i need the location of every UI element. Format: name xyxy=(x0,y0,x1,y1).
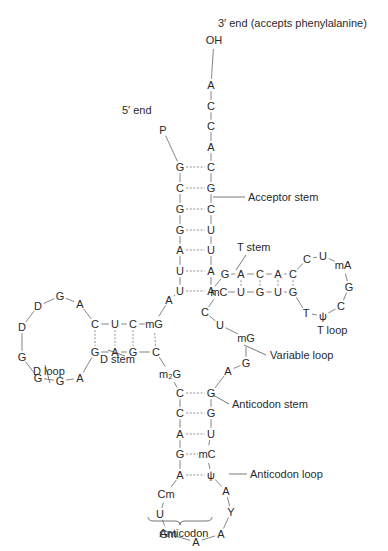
nucleotide-d-D2: D xyxy=(18,321,26,333)
backbone-bond xyxy=(227,497,229,506)
anticodon-stem-label: Anticodon stem xyxy=(232,398,308,410)
nucleotide-tl-U: U xyxy=(319,250,327,262)
nucleotide-ac-r3: U xyxy=(207,428,215,440)
nucleotide-acl-A3: A xyxy=(222,485,230,497)
backbone-bond xyxy=(209,299,214,307)
nucleotide-d-C3: C xyxy=(152,346,160,358)
nucleotide-a2: C xyxy=(176,182,184,194)
backbone-bond xyxy=(171,480,176,487)
base-pair xyxy=(155,333,156,346)
nucleotide-d-C1: C xyxy=(129,318,137,330)
t-stem-label: T stem xyxy=(237,241,270,253)
backbone-bond xyxy=(345,274,347,281)
nucleotide-b1: C xyxy=(207,161,215,173)
nucleotide-tl-psi: ψ xyxy=(319,310,327,322)
backbone-bond xyxy=(209,463,210,469)
nucleotide-t-G2: G xyxy=(289,286,298,298)
nucleotide-d-A1: A xyxy=(76,298,84,310)
nucleotide-v-U: U xyxy=(216,319,224,331)
nucleotide-v-G: G xyxy=(242,357,251,369)
nucleotide-t-mC: mC xyxy=(210,286,227,298)
t-loop-label: T loop xyxy=(317,324,347,336)
nucleotide-tl-T: T xyxy=(303,307,310,319)
nucleotide-b4: U xyxy=(207,224,215,236)
backbone-bond xyxy=(66,298,74,301)
nucleotide-ac-l1: C xyxy=(176,387,184,399)
backbone-bond xyxy=(174,295,175,296)
label-leader-lines xyxy=(45,197,266,474)
nucleotide-d-mG: mG xyxy=(145,318,163,330)
backbone-bond xyxy=(224,518,229,529)
nucleotide-ac-r2: G xyxy=(207,407,216,419)
nucleotide-d-G1: G xyxy=(56,290,65,302)
nucleotide-a4: G xyxy=(176,224,185,236)
variable-loop-label: Variable loop xyxy=(270,349,333,361)
nucleotide-a7: U xyxy=(176,285,184,297)
backbone-bond xyxy=(328,309,335,313)
anticodon-stem-leader xyxy=(213,395,229,404)
nucleotide-d-A2: A xyxy=(76,372,84,384)
five-prime-end-label: 5′ end xyxy=(122,104,152,116)
nucleotide-d-U: U xyxy=(111,318,119,330)
nucleotide-acl-Y: Y xyxy=(227,506,235,518)
backbone-bond xyxy=(159,305,166,316)
backbone-bond xyxy=(83,357,92,372)
nucleotide-a3: G xyxy=(176,203,185,215)
nucleotide-acl-U: U xyxy=(156,508,164,520)
three-prime-end-label: 3′ end (accepts phenylalanine) xyxy=(218,17,367,29)
anticodon-loop-label: Anticodon loop xyxy=(250,468,323,480)
nucleotide-ac-r1: G xyxy=(207,387,216,399)
nucleotide-b2: G xyxy=(207,182,216,194)
backbone-bond xyxy=(209,440,210,445)
region-labels: 3′ end (accepts phenylalanine)5′ endAcce… xyxy=(33,17,367,539)
nucleotide-d-G5: G xyxy=(91,346,100,358)
nucleotide-t-A1: A xyxy=(237,268,245,280)
backbone-bond xyxy=(215,376,224,388)
nucleotide-ac-r4: mC xyxy=(198,448,215,460)
nucleotide-t-U2: U xyxy=(274,286,282,298)
nucleotide-b3: C xyxy=(207,203,215,215)
backbone-bond xyxy=(312,314,317,315)
d-loop-label: D loop xyxy=(33,365,65,377)
nucleotide-n5-P: P xyxy=(159,124,166,136)
nucleotide-d-D1: D xyxy=(34,300,42,312)
nucleotide-ac-l2: C xyxy=(176,407,184,419)
backbone-bond xyxy=(234,366,241,369)
nucleotide-a1: G xyxy=(176,161,185,173)
nucleotide-tl-C2: C xyxy=(337,300,345,312)
nucleotide-b5: U xyxy=(207,244,215,256)
nucleotide-a6: U xyxy=(176,265,184,277)
backbone-bond xyxy=(215,480,222,487)
nucleotide-ac-l4: G xyxy=(176,448,185,460)
nucleotide-d-G2: G xyxy=(18,351,27,363)
nucleotide-j8: A xyxy=(165,294,173,306)
d-stem-label: D stem xyxy=(100,353,135,365)
nucleotide-t-C2: C xyxy=(289,268,297,280)
nucleotide-v-C: C xyxy=(201,306,209,318)
nucleotide-v-A: A xyxy=(224,365,232,377)
nucleotide-b6: A xyxy=(207,265,215,277)
nucleotide-d-C2: C xyxy=(91,318,99,330)
backbone-bond xyxy=(159,357,165,366)
backbone-bond xyxy=(226,328,238,334)
nucleotide-acl-A2: A xyxy=(217,528,225,540)
backbone-bond xyxy=(210,316,216,321)
nucleotide-tl-C: C xyxy=(303,253,311,265)
nucleotide-n3-A76: A xyxy=(207,79,215,91)
variable-loop-leader xyxy=(244,345,266,355)
anticodon-label: Anticodon xyxy=(160,527,209,539)
trna-cloverleaf-diagram: OHACCAPGCGGAUUCGCUUAAAmGCUCAGDDGGGAGAGCm… xyxy=(0,0,388,551)
acceptor-stem-label: Acceptor stem xyxy=(248,191,318,203)
nucleotide-a5: A xyxy=(176,244,184,256)
nucleotide-t-U1: U xyxy=(237,286,245,298)
nucleotide-t-A2: A xyxy=(274,268,282,280)
nucleotide-t-G1: G xyxy=(256,286,265,298)
nucleotide-n3-C75: C xyxy=(207,100,215,112)
backbone-bond xyxy=(297,264,303,270)
backbone-bond xyxy=(166,136,178,162)
nucleotide-n3-C74: C xyxy=(207,120,215,132)
nucleotide-ac-l5: A xyxy=(176,469,184,481)
nucleotide-n3-OH: OH xyxy=(206,34,223,46)
backbone-bond xyxy=(44,299,55,304)
backbone-bond xyxy=(211,49,213,79)
